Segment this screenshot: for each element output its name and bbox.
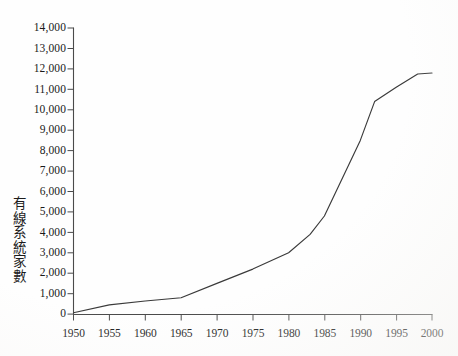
y-axis-title-char-1: 有 bbox=[11, 196, 28, 211]
y-axis-title-char-5: 家 bbox=[11, 254, 28, 269]
y-axis-title-char-4: 統 bbox=[11, 240, 28, 255]
x-tick-label-1990: 1990 bbox=[341, 327, 381, 339]
x-tick-label-1985: 1985 bbox=[305, 327, 345, 339]
x-tick-label-1995: 1995 bbox=[377, 327, 417, 339]
chart-figure: 14,000 13,000 12,000 11,000 10,000 9,000… bbox=[0, 0, 458, 356]
x-tick-label-1980: 1980 bbox=[269, 327, 309, 339]
x-tick-label-1970: 1970 bbox=[197, 327, 237, 339]
x-tick-label-1960: 1960 bbox=[125, 327, 165, 339]
x-tick-label-1965: 1965 bbox=[161, 327, 201, 339]
x-axis-tick-labels: 1950 1955 1960 1965 1970 1975 1980 1985 … bbox=[0, 0, 458, 356]
x-tick-label-2000: 2000 bbox=[412, 327, 452, 339]
y-axis-title-char-6: 數 bbox=[11, 269, 28, 284]
x-tick-label-1950: 1950 bbox=[54, 327, 94, 339]
y-axis-title: 有 線 系 統 家 數 bbox=[11, 196, 28, 284]
y-axis-title-char-3: 系 bbox=[11, 225, 28, 240]
x-tick-label-1975: 1975 bbox=[233, 327, 273, 339]
x-tick-label-1955: 1955 bbox=[89, 327, 129, 339]
y-axis-title-char-2: 線 bbox=[11, 211, 28, 226]
